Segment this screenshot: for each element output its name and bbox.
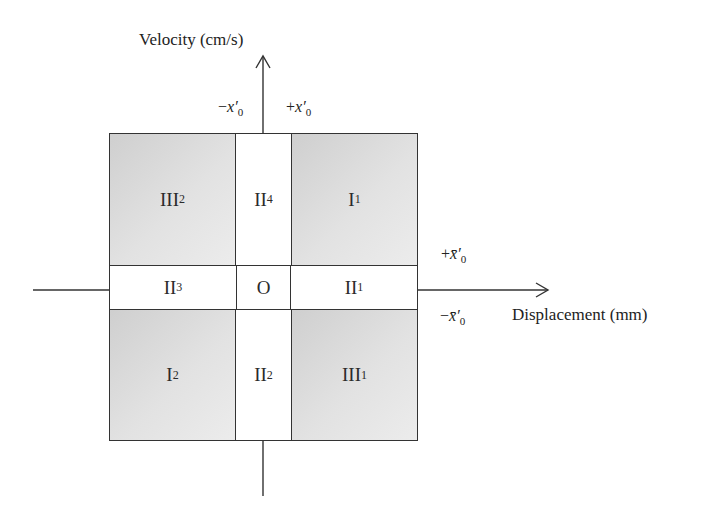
velocity-axis-label: Velocity (cm/s) <box>139 30 243 50</box>
region-III2: III2 <box>109 133 236 266</box>
region-I2: I2 <box>109 309 236 441</box>
boundary-neg-xbar0: −x̄′0 <box>440 307 465 327</box>
region-I1: I1 <box>291 133 418 266</box>
phase-plane-grid: III2 II4 I1 II3 O II1 I2 II2 III1 <box>109 133 418 441</box>
boundary-neg-x0: −x′0 <box>218 98 243 118</box>
region-II4: II4 <box>236 133 291 266</box>
region-II2: II2 <box>236 309 291 441</box>
region-II1: II1 <box>291 266 418 309</box>
boundary-pos-x0: +x′0 <box>286 98 311 118</box>
boundary-pos-xbar0: +x̄′0 <box>441 245 466 265</box>
displacement-axis-label: Displacement (mm) <box>512 305 648 325</box>
region-II3: II3 <box>109 266 236 309</box>
region-III1: III1 <box>291 309 418 441</box>
region-O: O <box>236 266 291 309</box>
